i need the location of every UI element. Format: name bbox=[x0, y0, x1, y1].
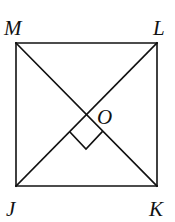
center-label-o: O bbox=[97, 105, 112, 129]
square-diagram: M L K J O bbox=[0, 0, 175, 222]
vertex-label-l: L bbox=[152, 16, 165, 40]
vertex-label-k: K bbox=[148, 197, 164, 221]
vertex-label-j: J bbox=[6, 197, 17, 221]
vertex-label-m: M bbox=[3, 16, 23, 40]
right-angle-marker bbox=[70, 132, 102, 149]
